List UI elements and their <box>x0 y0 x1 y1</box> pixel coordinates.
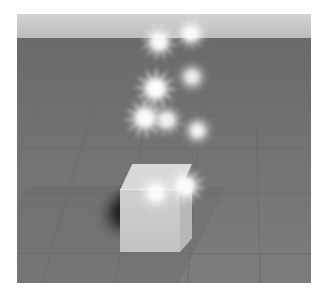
cube-front-face <box>120 189 180 252</box>
grid-line-horizontal-1 <box>17 59 311 60</box>
grid-line-horizontal-5 <box>17 148 311 149</box>
grid-line-horizontal-0 <box>17 48 311 49</box>
grid-line-horizontal-4 <box>17 115 311 116</box>
cube-right-face <box>180 189 192 252</box>
grid-line-horizontal-2 <box>17 73 311 74</box>
cube[interactable] <box>120 164 196 252</box>
grid-line-horizontal-7 <box>17 253 311 254</box>
grid-line-horizontal-3 <box>17 91 311 92</box>
cube-top-face <box>120 164 192 190</box>
scene-frame <box>0 0 326 295</box>
render-viewport[interactable] <box>17 14 311 283</box>
cube-top-edge-highlight <box>120 189 180 190</box>
